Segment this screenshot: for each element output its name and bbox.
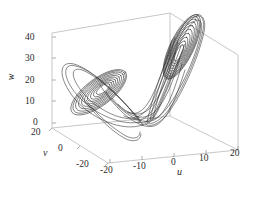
attractor-trajectory bbox=[62, 10, 208, 141]
tick-label-u-10: 10 bbox=[199, 154, 209, 164]
tick-label-u-0: 0 bbox=[171, 158, 176, 168]
outer-l-2 bbox=[62, 63, 143, 127]
axis-title-w: w bbox=[6, 74, 16, 81]
tick-label-w-20: 20 bbox=[25, 76, 35, 86]
tick-label-u-20: 20 bbox=[230, 149, 240, 159]
tick-v-0 bbox=[77, 146, 80, 149]
tick-label-u-neg20: -20 bbox=[100, 166, 113, 176]
wall-left-top bbox=[52, 13, 170, 33]
figure-root: 40 30 20 10 0 20 0 -20 -20 -10 0 10 20 w… bbox=[0, 0, 262, 197]
tick-label-w-40: 40 bbox=[25, 33, 35, 43]
tick-v-20 bbox=[49, 128, 52, 131]
axis-title-v: v bbox=[43, 148, 47, 158]
left-wing-outer bbox=[62, 63, 143, 127]
plot-canvas bbox=[0, 0, 262, 197]
axis-title-u: u bbox=[177, 167, 182, 177]
tick-label-u-neg10: -10 bbox=[133, 162, 146, 172]
tick-label-v-20: 20 bbox=[31, 128, 41, 138]
tick-label-w-10: 10 bbox=[25, 97, 35, 107]
tick-label-v-neg20: -20 bbox=[76, 160, 89, 170]
right-orbit-8 bbox=[158, 15, 204, 81]
axes-box bbox=[52, 13, 238, 163]
tick-label-w-30: 30 bbox=[25, 54, 35, 64]
tick-label-v-0: 0 bbox=[58, 144, 63, 154]
left-orbit-8 bbox=[70, 65, 130, 118]
